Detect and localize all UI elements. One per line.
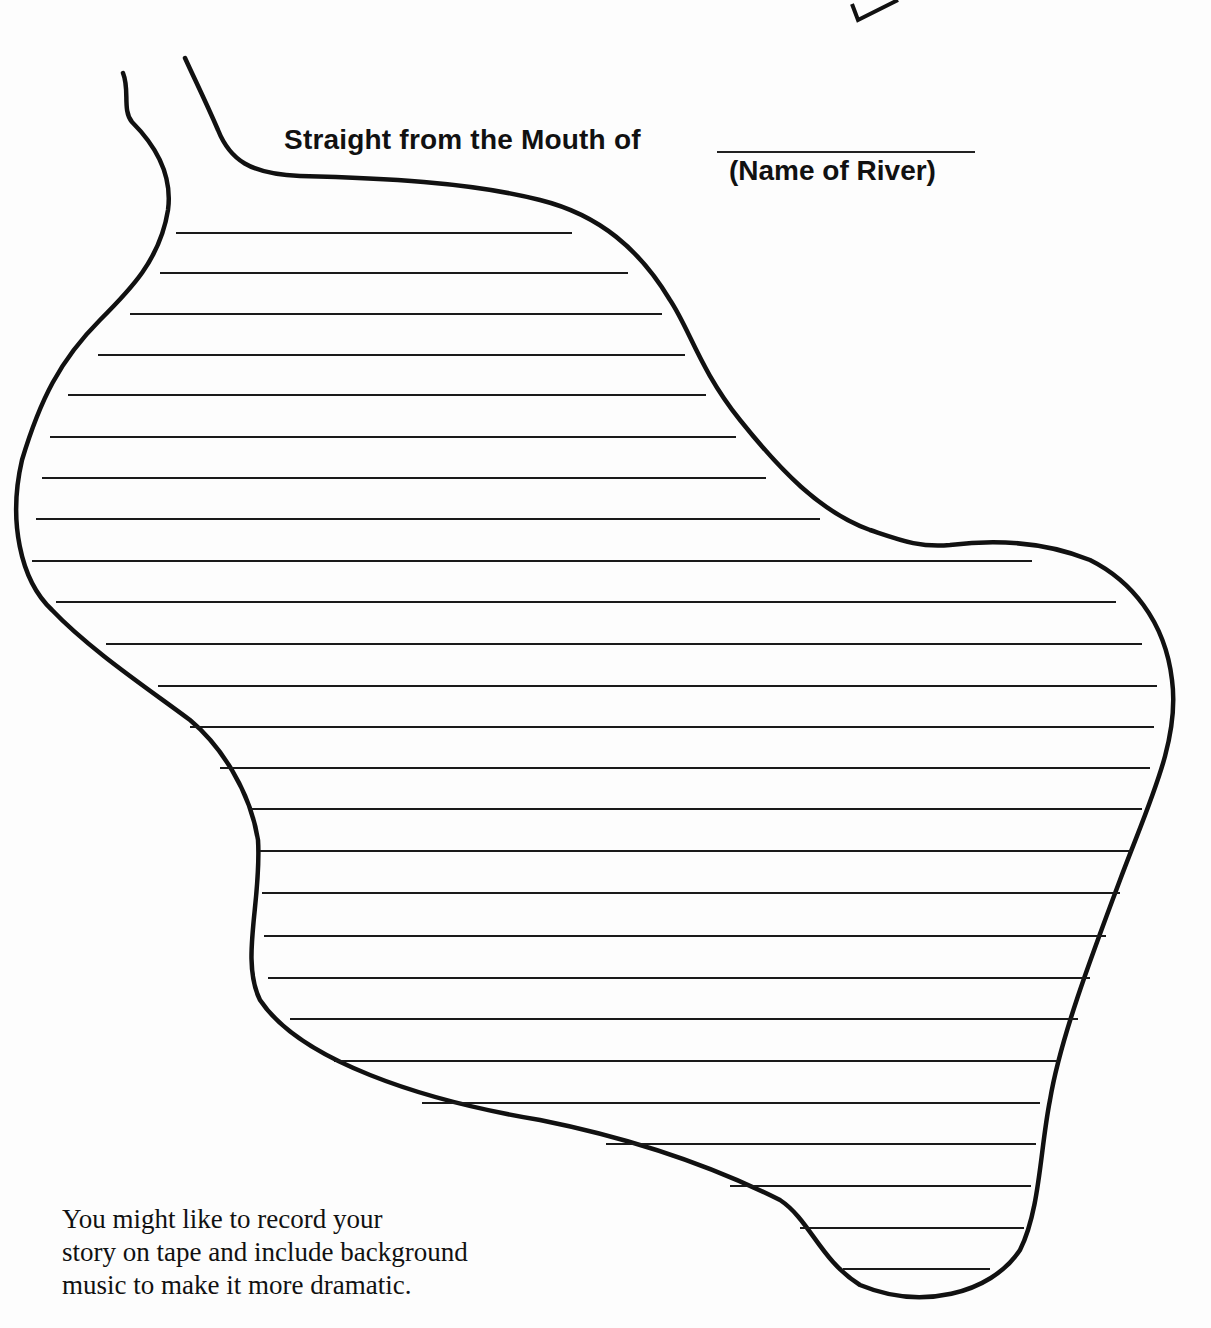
worksheet-title: Straight from the Mouth of [284,124,641,156]
writing-line[interactable] [422,1102,1040,1104]
writing-line[interactable] [130,313,662,315]
writing-line[interactable] [606,1143,1036,1145]
writing-line[interactable] [50,436,736,438]
writing-line[interactable] [250,808,1142,810]
arrow-fragment-icon [852,0,898,20]
instruction-note: You might like to record your story on t… [62,1203,602,1302]
writing-line[interactable] [36,518,820,520]
river-name-label: (Name of River) [729,155,936,187]
writing-line[interactable] [158,685,1157,687]
writing-line[interactable] [42,477,766,479]
writing-line[interactable] [106,643,1142,645]
note-line: story on tape and include background [62,1236,602,1269]
writing-line[interactable] [334,1060,1058,1062]
writing-line[interactable] [160,272,628,274]
writing-line[interactable] [262,892,1120,894]
writing-line[interactable] [290,1018,1078,1020]
writing-line[interactable] [190,726,1154,728]
writing-line[interactable] [68,394,706,396]
writing-line[interactable] [32,560,1032,562]
writing-line[interactable] [260,850,1132,852]
writing-line[interactable] [264,935,1106,937]
writing-line[interactable] [843,1268,990,1270]
writing-line[interactable] [98,354,685,356]
river-name-blank[interactable] [717,151,975,153]
writing-line[interactable] [220,767,1150,769]
writing-line[interactable] [268,977,1090,979]
note-line: music to make it more dramatic. [62,1269,602,1302]
writing-line[interactable] [176,232,572,234]
note-line: You might like to record your [62,1203,602,1236]
writing-line[interactable] [730,1185,1031,1187]
river-outline [0,0,1211,1328]
writing-line[interactable] [800,1227,1024,1229]
writing-line[interactable] [56,601,1116,603]
